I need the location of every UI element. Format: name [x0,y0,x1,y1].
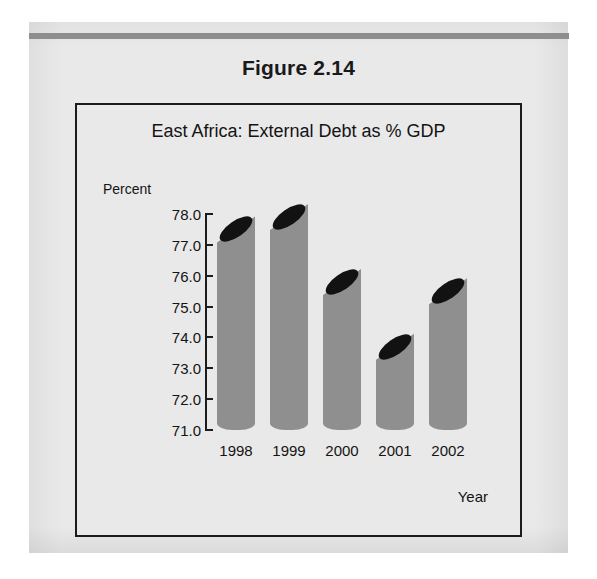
x-category-label: 1999 [262,442,316,459]
top-horizontal-rule [29,33,569,39]
y-tick-label: 75.0 [172,298,201,315]
bar [217,216,255,430]
plot-area: 78.077.076.075.074.073.072.071.0 1998199… [77,105,524,539]
y-tick-mark [205,244,213,246]
y-tick-label: 72.0 [172,391,201,408]
x-category-label: 2000 [315,442,369,459]
x-category-label: 2002 [421,442,475,459]
y-tick-label: 76.0 [172,267,201,284]
y-tick-label: 78.0 [172,206,201,223]
y-tick-mark [205,398,213,400]
y-axis-tick-labels: 78.077.076.075.074.073.072.071.0 [125,105,201,539]
y-tick-mark [205,367,213,369]
x-axis-label: Year [458,488,488,505]
y-tick-mark [205,275,213,277]
y-tick-mark [205,213,213,215]
y-tick-label: 71.0 [172,422,201,439]
y-tick-mark [205,429,213,431]
x-category-label: 1998 [209,442,263,459]
chart-frame: East Africa: External Debt as % GDP Perc… [75,103,522,537]
figure-number-title: Figure 2.14 [0,56,597,80]
y-tick-label: 77.0 [172,236,201,253]
y-tick-label: 74.0 [172,329,201,346]
x-category-label: 2001 [368,442,422,459]
y-tick-label: 73.0 [172,360,201,377]
bar [270,204,308,430]
y-tick-mark [205,306,213,308]
y-tick-mark [205,336,213,338]
